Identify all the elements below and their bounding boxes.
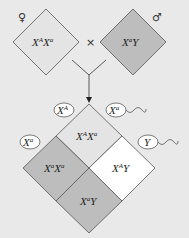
male-symbol-icon: ♂: [152, 11, 162, 24]
punnett-square: [23, 104, 155, 233]
sperm-Xa: Xa: [106, 103, 146, 117]
female-symbol-icon: ♀: [18, 11, 26, 24]
sperm-tail-icon: [126, 108, 146, 113]
egg-XA: XA: [54, 103, 74, 117]
male-parent: ♂ XaY: [100, 9, 166, 75]
sperm-Y: Y: [138, 135, 178, 149]
female-parent: ♀ XAXa: [13, 9, 79, 75]
egg-Xa: Xa: [20, 135, 40, 149]
cross-symbol: ×: [86, 36, 95, 49]
sperm-tail-icon: [158, 140, 178, 145]
punnett-diagram: ♀ XAXa × ♂ XaY XAXa XaXa XAY XaY XA Xa X…: [0, 0, 189, 238]
cross-arrow-icon: [72, 60, 106, 103]
